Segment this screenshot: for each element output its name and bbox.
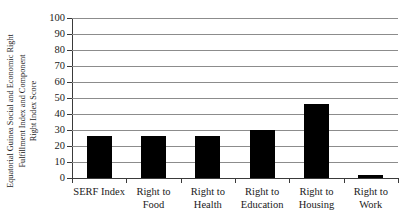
gridline (72, 98, 398, 99)
x-tick-label-line: Work (328, 199, 412, 212)
gridline (72, 114, 398, 115)
x-tick-mark (181, 178, 182, 183)
gridline (72, 146, 398, 147)
x-tick-mark (72, 178, 73, 183)
y-tick-label: 100 (7, 13, 65, 24)
x-tick-label: Right toWork (328, 186, 412, 211)
y-tick-mark (67, 146, 72, 147)
gridline (72, 130, 398, 131)
x-tick-mark (344, 178, 345, 183)
x-tick-mark (126, 178, 127, 183)
bar-chart: Equatorial Guinea Social and Economic Ri… (0, 0, 412, 222)
gridline (72, 50, 398, 51)
y-tick-mark (67, 114, 72, 115)
y-tick-mark (67, 34, 72, 35)
bar (304, 104, 329, 178)
y-tick-mark (67, 50, 72, 51)
bar (250, 130, 275, 178)
gridline (72, 162, 398, 163)
gridline (72, 34, 398, 35)
y-tick-mark (67, 82, 72, 83)
x-tick-label-line: Right to (328, 186, 412, 199)
y-tick-mark (67, 130, 72, 131)
gridline (72, 82, 398, 83)
x-tick-mark (398, 178, 399, 183)
y-tick-label: 90 (7, 29, 65, 40)
y-tick-mark (67, 162, 72, 163)
gridline (72, 66, 398, 67)
y-tick-mark (67, 66, 72, 67)
bar (141, 136, 166, 178)
y-tick-mark (67, 98, 72, 99)
y-tick-mark (67, 18, 72, 19)
y-tick-label: 20 (7, 141, 65, 152)
bar (87, 136, 112, 178)
x-tick-mark (235, 178, 236, 183)
y-tick-label: 50 (7, 93, 65, 104)
x-tick-mark (289, 178, 290, 183)
y-tick-label: 70 (7, 61, 65, 72)
bar (195, 136, 220, 178)
y-tick-label: 10 (7, 157, 65, 168)
y-tick-label: 30 (7, 125, 65, 136)
y-tick-label: 60 (7, 77, 65, 88)
y-tick-label: 40 (7, 109, 65, 120)
y-tick-label: 80 (7, 45, 65, 56)
y-tick-label: 0 (7, 173, 65, 184)
gridline (72, 18, 398, 19)
bar (358, 175, 383, 178)
plot-area (72, 18, 398, 178)
